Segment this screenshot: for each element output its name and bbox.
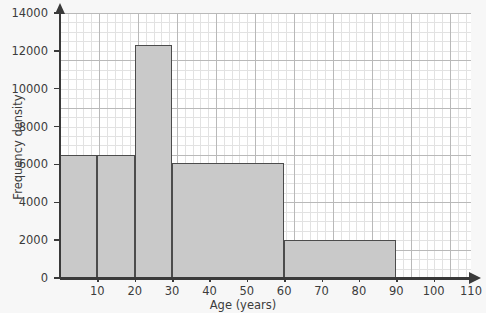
histogram-bar xyxy=(135,45,172,278)
x-axis-tick-label: 80 xyxy=(339,284,379,298)
y-axis-tick xyxy=(54,164,60,166)
y-axis-tick xyxy=(54,239,60,241)
histogram-bar xyxy=(97,155,134,278)
histogram-bar xyxy=(172,163,284,278)
y-axis-tick xyxy=(54,12,60,14)
x-axis-tick-label: 10 xyxy=(77,284,117,298)
x-axis-line xyxy=(60,277,472,280)
x-axis-tick-label: 40 xyxy=(189,284,229,298)
x-axis-tick-label: 70 xyxy=(302,284,342,298)
x-axis-tick-label: 50 xyxy=(227,284,267,298)
x-axis-tick xyxy=(434,277,436,282)
y-axis-tick-label: 14000 xyxy=(0,6,48,20)
x-axis-tick-label: 30 xyxy=(152,284,192,298)
y-axis-tick xyxy=(54,126,60,128)
x-axis-tick xyxy=(284,277,286,282)
x-axis-tick xyxy=(209,277,211,282)
histogram-bar xyxy=(284,240,396,278)
y-axis-tick-label: 12000 xyxy=(0,44,48,58)
x-axis-tick-label: 110 xyxy=(451,284,486,298)
x-axis-tick xyxy=(322,277,324,282)
histogram-chart: 02000400060008000100001200014000 1020304… xyxy=(0,0,486,313)
y-axis-tick xyxy=(54,88,60,90)
x-axis-tick xyxy=(396,277,398,282)
x-axis-tick xyxy=(247,277,249,282)
x-axis-tick-label: 20 xyxy=(115,284,155,298)
x-axis-tick xyxy=(359,277,361,282)
x-axis-tick-label: 100 xyxy=(414,284,454,298)
y-axis-tick xyxy=(54,202,60,204)
x-axis-tick xyxy=(471,277,473,282)
y-axis-tick-label: 0 xyxy=(0,271,48,285)
y-axis-title: Frequency density xyxy=(11,67,25,227)
y-axis-tick-label: 2000 xyxy=(0,233,48,247)
histogram-bar xyxy=(60,155,97,278)
x-axis-tick-label: 90 xyxy=(376,284,416,298)
x-axis-tick xyxy=(135,277,137,282)
x-axis-title: Age (years) xyxy=(0,298,486,312)
y-axis-tick xyxy=(54,50,60,52)
x-axis-tick-label: 60 xyxy=(264,284,304,298)
plot-area xyxy=(60,13,471,278)
x-axis-tick xyxy=(172,277,174,282)
y-axis-tick xyxy=(54,277,60,279)
x-axis-tick xyxy=(97,277,99,282)
